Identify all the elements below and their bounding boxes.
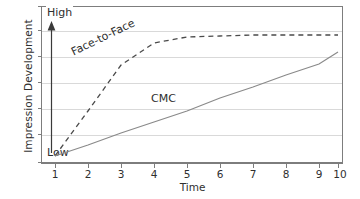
x-axis-tick-label: 4 [139,168,169,180]
chart-figure: Impression Development High Low Face-to-… [0,0,360,199]
x-axis-tick-label: 8 [271,168,301,180]
x-axis-tick-label: 10 [325,168,355,180]
x-axis-tick-label: 6 [205,168,235,180]
x-axis-tick-label: 7 [238,168,268,180]
y-axis-title: Impression Development [22,6,34,166]
x-axis-tick-label: 2 [73,168,103,180]
series-line-cmc [55,52,338,156]
series-layer [41,6,343,163]
x-axis-tick-label: 1 [40,168,70,180]
x-axis-tick-label: 3 [106,168,136,180]
series-label-cmc: CMC [151,92,176,105]
x-axis-tick-label: 5 [172,168,202,180]
series-line-face-to-face [55,35,338,156]
x-axis-title: Time [40,181,345,193]
x-axis-spine [41,163,343,164]
